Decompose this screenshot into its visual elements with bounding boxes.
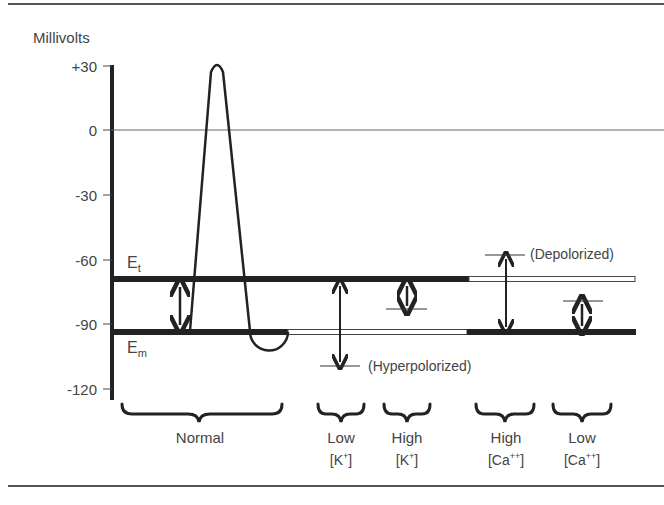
threshold-label: Et [127,254,141,274]
y-tick-label: -60 [75,252,97,269]
action-potential-curve [190,65,288,351]
group-label-normal: Normal [176,429,224,446]
resting-label: Em [127,339,147,359]
group-braces [122,404,611,422]
brace-high-ca [476,404,534,422]
depolarized-label: (Depolorized) [530,246,614,262]
y-axis: +30 0 -30 -60 -90 -120 [67,58,112,400]
y-tick-label: -120 [67,381,97,398]
hyperpolarized-label: (Hyperpolorized) [368,358,471,374]
brace-high-k [384,404,430,422]
brace-low-ca [553,404,611,422]
group-label-low-ca-line1: Low [568,429,596,446]
y-tick-label: -30 [75,187,97,204]
y-tick-label: 0 [89,122,97,139]
threshold-bar [112,276,635,282]
y-tick-label: +30 [72,58,97,75]
group-label-low-k-line1: Low [327,429,355,446]
y-axis-title: Millivolts [33,29,90,46]
group-label-low-k-line2: [K+] [330,451,352,468]
group-label-high-k-line2: [K+] [396,451,418,468]
group-label-high-k-line1: High [392,429,423,446]
brace-normal [122,404,282,422]
group-label-high-ca-line2: [Ca++] [488,451,524,468]
y-tick-label: -90 [75,316,97,333]
brace-low-k [318,404,364,422]
membrane-potential-diagram: Millivolts +30 0 -30 -60 -90 -120 Et Em [0,0,664,505]
group-label-low-ca-line2: [Ca++] [564,451,600,468]
group-label-high-ca-line1: High [491,429,522,446]
group-labels: Normal Low [K+] High [K+] High [Ca++] Lo… [176,429,600,468]
